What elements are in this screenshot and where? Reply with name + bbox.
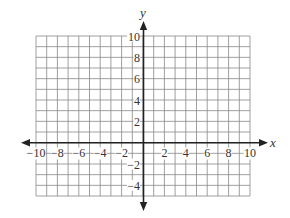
x-tick-label: −6 [72, 146, 85, 160]
y-axis-down-arrow-icon [140, 202, 147, 211]
x-tick-label: −8 [51, 146, 64, 160]
x-axis-label: x [269, 135, 276, 150]
x-tick-label: 6 [204, 146, 210, 160]
coordinate-plane: −10−8−6−4−2246810108642−2−4 x y [0, 0, 290, 218]
axes [21, 21, 268, 211]
y-tick-label: 10 [128, 30, 140, 44]
y-tick-label: 6 [134, 72, 140, 86]
y-tick-label: −4 [127, 179, 140, 193]
y-tick-label: 4 [134, 94, 140, 108]
x-tick-label: 4 [183, 146, 189, 160]
y-axis-up-arrow-icon [140, 21, 147, 30]
x-tick-label: 2 [161, 146, 167, 160]
y-tick-label: −2 [127, 158, 140, 172]
x-tick-label: −10 [27, 146, 46, 160]
y-axis-label: y [138, 5, 146, 20]
x-axis-right-arrow-icon [259, 139, 268, 146]
x-tick-label: 10 [244, 146, 256, 160]
x-tick-label: 8 [226, 146, 232, 160]
tick-labels: −10−8−6−4−2246810108642−2−4 [26, 30, 256, 193]
x-tick-label: −2 [115, 146, 128, 160]
x-tick-label: −4 [94, 146, 107, 160]
y-tick-label: 8 [134, 51, 140, 65]
y-tick-label: 2 [134, 115, 140, 129]
